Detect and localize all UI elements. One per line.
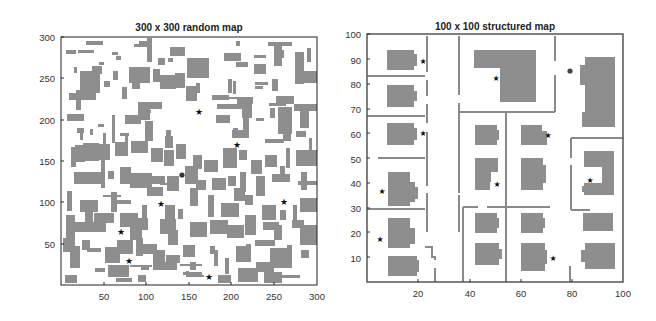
- star-marker-icon: ★: [492, 74, 499, 83]
- star-marker-icon: ★: [493, 180, 500, 189]
- star-marker-icon: ★: [549, 254, 556, 263]
- star-marker-icon: ★: [586, 176, 593, 185]
- plots-canvas: ★ ★ ★ ★ ★ ★ ★: [0, 0, 656, 321]
- right-map-obstacles: [387, 50, 615, 276]
- star-marker-icon: ★: [419, 129, 426, 138]
- star-marker-icon: ★: [195, 107, 203, 117]
- star-marker-icon: ★: [157, 199, 165, 209]
- star-marker-icon: ★: [378, 187, 385, 196]
- circle-marker-icon: [179, 172, 184, 177]
- star-marker-icon: ★: [544, 131, 551, 140]
- figure: 300 x 300 random map 300 250 200 150 100…: [0, 0, 656, 321]
- star-marker-icon: ★: [117, 227, 125, 237]
- star-marker-icon: ★: [376, 235, 383, 244]
- star-marker-icon: ★: [419, 57, 426, 66]
- star-marker-icon: ★: [280, 197, 288, 207]
- left-map-obstacles: [63, 38, 317, 283]
- star-marker-icon: ★: [233, 140, 241, 150]
- star-marker-icon: ★: [205, 272, 213, 282]
- star-marker-icon: ★: [125, 256, 133, 266]
- circle-marker-icon: [567, 68, 572, 73]
